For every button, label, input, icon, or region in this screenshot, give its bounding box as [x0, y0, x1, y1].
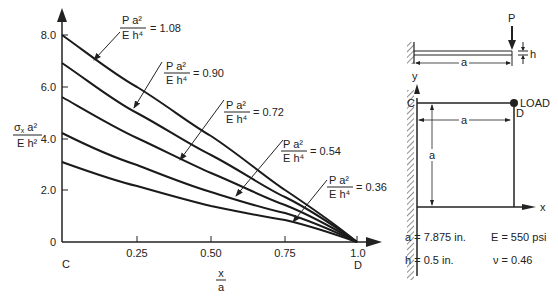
chart: 0 2.0 4.0 6.0 8.0 0.25 0.50 0.75 1.0 C D… — [13, 8, 387, 293]
svg-text:= 0.54: = 0.54 — [310, 145, 341, 157]
svg-text:σx a²: σx a² — [14, 121, 37, 134]
x-end-c: C — [62, 258, 70, 270]
svg-text:P a²: P a² — [122, 14, 142, 26]
width-label: a — [461, 114, 468, 126]
plate-x-label: x — [540, 201, 546, 213]
svg-text:E h⁴: E h⁴ — [226, 113, 248, 125]
svg-text:E h⁴: E h⁴ — [329, 188, 351, 200]
x-axis-label: x a — [216, 267, 226, 293]
svg-text:E h⁴: E h⁴ — [122, 29, 144, 41]
x-ticks — [137, 236, 357, 242]
x-end-d: D — [354, 259, 362, 271]
param-a: a = 7.875 in. — [405, 231, 466, 243]
param-nu: ν = 0.46 — [493, 254, 532, 266]
svg-text:= 1.08: = 1.08 — [150, 22, 181, 34]
x-tick-075: 0.75 — [274, 247, 295, 259]
y-tick-8: 8.0 — [41, 29, 56, 41]
svg-text:E h⁴: E h⁴ — [283, 152, 305, 164]
annotation-0-90: P a² E h⁴ = 0.90 — [164, 60, 224, 86]
load-label: P — [508, 12, 515, 24]
plate-x-arrow-icon — [522, 204, 536, 210]
wall-hatch — [407, 90, 414, 280]
svg-text:P a²: P a² — [166, 60, 186, 72]
annotation-1-08: P a² E h⁴ = 1.08 — [120, 14, 181, 41]
y-axis-label: σx a² E h² — [13, 121, 42, 149]
svg-text:a: a — [218, 281, 225, 293]
load-point-label: LOAD — [520, 97, 550, 109]
plate-y-label: y — [412, 70, 418, 82]
svg-text:= 0.90: = 0.90 — [193, 67, 224, 79]
x-tick-050: 0.50 — [200, 247, 221, 259]
curve-0-36 — [62, 162, 357, 242]
y-ticks — [62, 35, 68, 190]
annotation-0-54: P a² E h⁴ = 0.54 — [281, 138, 341, 164]
param-E: E = 550 psi — [491, 231, 546, 243]
svg-text:E h⁴: E h⁴ — [166, 74, 188, 86]
thickness-label: h — [530, 48, 536, 60]
curve-0-72 — [62, 97, 357, 242]
svg-text:E h²: E h² — [17, 137, 38, 149]
thickness-dimension — [518, 42, 528, 64]
svg-text:P a²: P a² — [329, 174, 349, 186]
x-tick-025: 0.25 — [126, 247, 147, 259]
svg-text:= 0.72: = 0.72 — [253, 106, 284, 118]
load-arrow-icon — [508, 40, 516, 50]
plate-top-view: y x C D LOAD a a — [407, 70, 550, 280]
beam-side-view: P h a — [407, 12, 536, 68]
plate-y-arrow-icon — [414, 84, 420, 94]
y-tick-4: 4.0 — [41, 133, 56, 145]
x-axis-arrow-icon — [366, 237, 382, 247]
annotation-0-72: P a² E h⁴ = 0.72 — [224, 99, 284, 125]
load-point-icon — [510, 99, 518, 107]
height-label: a — [429, 149, 436, 161]
svg-text:P a²: P a² — [283, 138, 303, 150]
annotation-0-36: P a² E h⁴ = 0.36 — [327, 174, 387, 200]
x-tick-100: 1.0 — [350, 247, 365, 259]
svg-text:P a²: P a² — [226, 99, 246, 111]
svg-text:= 0.36: = 0.36 — [356, 181, 387, 193]
leader-arrows — [94, 32, 327, 222]
figure: 0 2.0 4.0 6.0 8.0 0.25 0.50 0.75 1.0 C D… — [0, 0, 558, 296]
y-axis-arrow-icon — [57, 8, 67, 22]
span-label: a — [461, 56, 468, 68]
param-h: h = 0.5 in. — [405, 254, 454, 266]
corner-c: C — [407, 97, 415, 109]
svg-text:x: x — [218, 267, 224, 279]
wall-hatch-top — [407, 42, 414, 64]
y-tick-6: 6.0 — [41, 81, 56, 93]
y-tick-0: 0 — [50, 236, 56, 248]
y-tick-2: 2.0 — [41, 184, 56, 196]
